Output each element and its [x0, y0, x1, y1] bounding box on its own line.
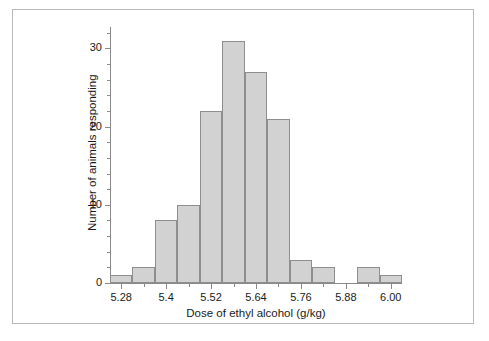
y-axis-minor-tick: [107, 64, 110, 65]
x-axis-tick-label-text: 5.28: [98, 291, 144, 303]
y-axis-major-tick: [105, 283, 110, 284]
y-axis-minor-tick: [107, 80, 110, 81]
y-axis-minor-tick: [107, 158, 110, 159]
x-axis-major-tick: [166, 284, 167, 289]
histogram-bar: [357, 267, 379, 283]
x-axis-minor-tick: [278, 284, 279, 287]
x-axis-tick-label: 5.28: [98, 291, 144, 303]
y-axis-minor-tick: [107, 236, 110, 237]
histogram-bar: [177, 205, 199, 283]
y-axis-minor-tick: [107, 111, 110, 112]
histogram-bar: [290, 260, 312, 283]
histogram-bar: [110, 275, 132, 283]
x-axis-tick-label: 5.4: [143, 291, 189, 303]
y-axis-major-tick: [105, 205, 110, 206]
x-axis-tick-label-text: 5.64: [233, 291, 279, 303]
y-axis-major-tick: [105, 48, 110, 49]
x-axis-minor-tick: [368, 284, 369, 287]
y-axis-minor-tick: [107, 189, 110, 190]
histogram-bar: [155, 220, 177, 283]
x-axis-major-tick: [301, 284, 302, 289]
x-axis-tick-label: 5.52: [188, 291, 234, 303]
histogram-bar: [312, 267, 334, 283]
histogram-bar: [222, 41, 244, 283]
x-axis-tick-label-text: 6.00: [368, 291, 414, 303]
y-axis-tick-label-text: 30: [76, 42, 102, 53]
histogram-bars: [110, 25, 402, 283]
histogram-figure: 0102030 5.285.45.525.645.765.886.00 Dose…: [0, 0, 489, 341]
y-axis-minor-tick: [107, 267, 110, 268]
x-axis-tick-label: 5.88: [323, 291, 369, 303]
y-axis-minor-tick: [107, 174, 110, 175]
y-axis-title: Number of animals responding: [86, 74, 98, 231]
histogram-bar: [132, 267, 154, 283]
x-axis-tick-label: 6.00: [368, 291, 414, 303]
histogram-bar: [245, 72, 267, 283]
y-axis-tick-label: 30: [74, 42, 102, 53]
x-axis-major-tick: [211, 284, 212, 289]
y-axis-minor-tick: [107, 33, 110, 34]
x-axis-minor-tick: [323, 284, 324, 287]
y-axis-major-tick: [105, 127, 110, 128]
x-axis-tick-label: 5.64: [233, 291, 279, 303]
x-axis-minor-tick: [189, 284, 190, 287]
x-axis-tick-label-text: 5.88: [323, 291, 369, 303]
x-axis-minor-tick: [144, 284, 145, 287]
y-axis-minor-tick: [107, 142, 110, 143]
x-axis-tick-label: 5.76: [278, 291, 324, 303]
y-axis-tick-label-text: 0: [76, 277, 102, 288]
x-axis-major-tick: [121, 284, 122, 289]
x-axis-minor-tick: [234, 284, 235, 287]
histogram-bar: [380, 275, 402, 283]
x-axis-major-tick: [391, 284, 392, 289]
x-axis-title: Dose of ethyl alcohol (g/kg): [110, 307, 402, 319]
x-axis-tick-label-text: 5.52: [188, 291, 234, 303]
x-axis-tick-label-text: 5.76: [278, 291, 324, 303]
x-axis-major-tick: [256, 284, 257, 289]
histogram-bar: [200, 111, 222, 283]
y-axis-minor-tick: [107, 95, 110, 96]
y-axis-minor-tick: [107, 220, 110, 221]
histogram-bar: [267, 119, 289, 283]
x-axis-tick-label-text: 5.4: [143, 291, 189, 303]
y-axis-tick-label: 0: [74, 277, 102, 288]
y-axis-minor-tick: [107, 252, 110, 253]
x-axis-major-tick: [346, 284, 347, 289]
